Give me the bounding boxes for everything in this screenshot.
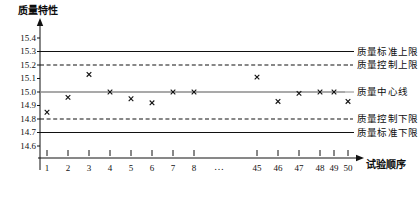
y-tick-label-14.6: 14.6 <box>6 142 36 151</box>
reference-line-label-lcl: 质量控制下限 <box>357 114 418 124</box>
x-axis-break-ellipsis: … <box>214 162 225 172</box>
reference-line-label-cl: 质量中心线 <box>357 87 408 97</box>
data-point-marker <box>276 99 281 104</box>
data-point-marker <box>129 96 134 101</box>
data-point-marker <box>45 110 50 115</box>
data-point-marker <box>87 72 92 77</box>
x-tick-label-5: 5 <box>121 164 141 173</box>
x-tick-label-8: 8 <box>184 164 204 173</box>
y-tick-label-15.1: 15.1 <box>6 74 36 83</box>
x-tick-label-1: 1 <box>37 164 57 173</box>
x-tick-label-3: 3 <box>79 164 99 173</box>
quality-control-chart: 质量特性 试验顺序 质量标准上限质量控制上限质量中心线质量控制下限质量标准下限1… <box>0 0 419 199</box>
y-axis-title: 质量特性 <box>18 6 58 16</box>
x-axis-title: 试验顺序 <box>366 160 406 170</box>
y-tick-label-14.9: 14.9 <box>6 101 36 110</box>
reference-line-label-ucl: 质量控制上限 <box>357 60 418 70</box>
x-tick-label-46: 46 <box>268 164 288 173</box>
reference-line-label-lsl: 质量标准下限 <box>357 128 418 138</box>
y-tick-label-15.0: 15.0 <box>6 88 36 97</box>
x-axis-arrow-icon <box>356 155 364 161</box>
y-tick-label-15.4: 15.4 <box>6 34 36 43</box>
data-point-marker <box>255 75 260 80</box>
x-tick-label-45: 45 <box>247 164 267 173</box>
y-tick-label-14.7: 14.7 <box>6 128 36 137</box>
x-tick-label-50: 50 <box>338 164 358 173</box>
y-tick-label-14.8: 14.8 <box>6 115 36 124</box>
reference-line-label-usl: 质量标准上限 <box>357 47 418 57</box>
x-tick-label-2: 2 <box>58 164 78 173</box>
x-tick-label-4: 4 <box>100 164 120 173</box>
y-tick-label-15.2: 15.2 <box>6 61 36 70</box>
data-point-marker <box>150 101 155 106</box>
data-point-marker <box>66 95 71 100</box>
y-axis-arrow-icon <box>37 18 43 26</box>
x-tick-label-6: 6 <box>142 164 162 173</box>
x-tick-label-7: 7 <box>163 164 183 173</box>
data-point-marker <box>346 99 351 104</box>
x-tick-label-47: 47 <box>289 164 309 173</box>
y-tick-label-15.3: 15.3 <box>6 47 36 56</box>
